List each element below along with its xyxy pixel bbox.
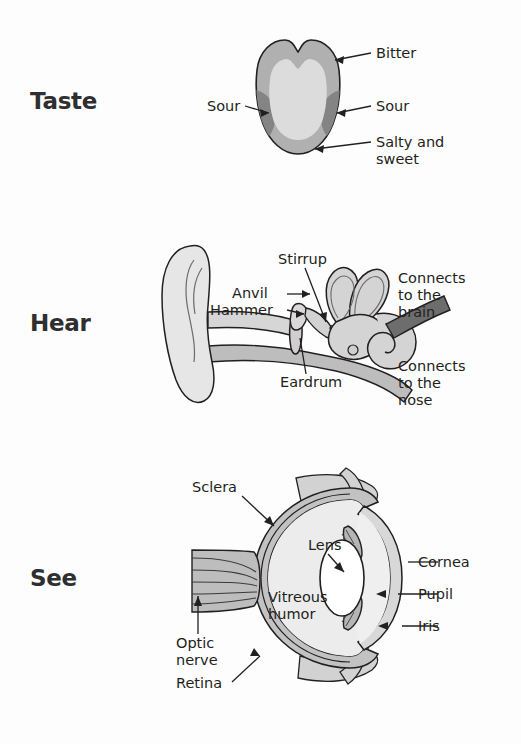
ear-hammer-bone: [290, 304, 307, 330]
eye-label-iris: Iris: [418, 618, 440, 634]
tongue-diagram: Bitter Sour Salty and sweet Sour: [185, 18, 505, 178]
ear-label-anvil: Anvil: [232, 285, 268, 301]
eye-label-optic-nerve-line2: nerve: [176, 652, 218, 668]
eye-label-optic-nerve-line1: Optic: [176, 635, 214, 651]
eye-optic-nerve: [192, 550, 260, 612]
section-heading-hear: Hear: [30, 310, 91, 336]
section-heading-see: See: [30, 565, 77, 591]
ear-label-stirrup: Stirrup: [278, 251, 327, 267]
ear-label-nose-line3: nose: [398, 392, 433, 408]
ear-pinna: [162, 245, 214, 402]
ear-label-brain-line3: brain: [398, 304, 435, 320]
tongue-label-sour-left: Sour: [207, 98, 240, 114]
ear-label-brain-line2: to the: [398, 287, 441, 303]
page-canvas: Taste Hear See: [0, 0, 521, 744]
eye-label-vitreous-line2: humor: [268, 606, 315, 622]
tongue-label-salty-sweet-line1: Salty and: [376, 134, 444, 150]
ear-label-brain-line1: Connects: [398, 270, 466, 286]
eye-label-pupil: Pupil: [418, 586, 453, 602]
ear-round-window: [348, 345, 358, 355]
tongue-label-salty-sweet-line2: sweet: [376, 151, 419, 167]
ear-label-nose-line2: to the: [398, 375, 441, 391]
eye-diagram: Sclera Lens Cornea Pupil Iris Vitreous h…: [150, 450, 521, 700]
eye-label-vitreous-line1: Vitreous: [268, 589, 328, 605]
eye-label-sclera: Sclera: [192, 479, 237, 495]
ear-label-eardrum: Eardrum: [280, 374, 342, 390]
tongue-center-region: [269, 59, 327, 140]
ear-label-nose-line1: Connects: [398, 358, 466, 374]
eye-label-retina: Retina: [176, 675, 222, 691]
eye-label-lens: Lens: [308, 537, 342, 553]
tongue-label-sour-right: Sour: [376, 98, 409, 114]
section-heading-taste: Taste: [30, 88, 97, 114]
ear-diagram: Stirrup Anvil Hammer Eardrum Connects to…: [150, 238, 521, 418]
ear-label-hammer: Hammer: [210, 302, 273, 318]
eye-label-cornea: Cornea: [418, 554, 470, 570]
tongue-label-bitter: Bitter: [376, 45, 416, 61]
